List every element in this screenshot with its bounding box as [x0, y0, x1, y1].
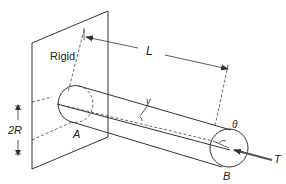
length-dimension: [84, 28, 228, 125]
torsion-diagram: Rigid L 2R A B γ θ T: [0, 0, 286, 184]
end-a-label: A: [72, 128, 80, 140]
original-generator-line: [57, 104, 213, 141]
gamma-label: γ: [146, 96, 151, 106]
wall-label: Rigid: [50, 50, 75, 62]
torque-arrow: [234, 150, 272, 160]
cylinder-bar: [57, 86, 231, 167]
end-a-circle: [58, 86, 93, 123]
torque-label: T: [274, 153, 282, 165]
end-b-circle: [210, 129, 248, 167]
theta-angle-marker: [219, 140, 226, 143]
diagram-canvas: Rigid L 2R A B γ θ T: [0, 0, 286, 184]
rigid-wall: [32, 11, 108, 169]
length-label: L: [146, 44, 153, 58]
diameter-label: 2R: [7, 124, 22, 136]
theta-label: θ: [232, 119, 238, 130]
end-b-label: B: [223, 170, 230, 182]
gamma-angle-marker: [140, 105, 148, 121]
